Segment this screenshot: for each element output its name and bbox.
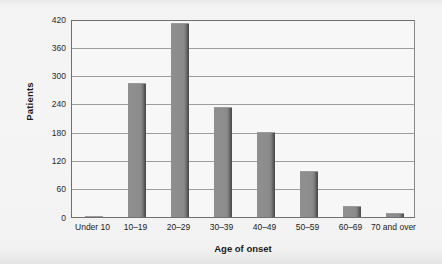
y-axis-tick-labels: 060120180240300360420 xyxy=(36,0,66,264)
x-axis-title: Age of onset xyxy=(71,243,415,254)
bar-slot xyxy=(171,20,189,217)
bar xyxy=(171,23,189,217)
bar xyxy=(214,107,232,217)
bar-chart-figure: Patients 060120180240300360420 Under 101… xyxy=(0,0,442,264)
bar xyxy=(85,216,103,218)
y-axis-tick-label: 60 xyxy=(40,185,66,194)
y-axis-tick-label: 360 xyxy=(40,44,66,53)
bar-slot xyxy=(128,20,146,217)
bar xyxy=(257,132,275,217)
bar-slot xyxy=(214,20,232,217)
y-axis-tick-label: 300 xyxy=(40,72,66,81)
bar-slot xyxy=(257,20,275,217)
y-axis-tick-label: 120 xyxy=(40,157,66,166)
y-axis-tick-label: 0 xyxy=(40,214,66,223)
bar-slot xyxy=(343,20,361,217)
bar xyxy=(128,83,146,217)
bar-slot xyxy=(85,20,103,217)
y-axis-tick-label: 240 xyxy=(40,100,66,109)
bar xyxy=(343,206,361,217)
bar xyxy=(386,213,404,217)
y-axis-title: Patients xyxy=(24,57,35,147)
bar-slot xyxy=(386,20,404,217)
plot-area xyxy=(71,20,415,218)
x-axis-tick-label: 70 and over xyxy=(366,222,422,232)
bar-slot xyxy=(300,20,318,217)
bar-series xyxy=(72,20,415,217)
bar xyxy=(300,171,318,217)
y-axis-tick-label: 180 xyxy=(40,129,66,138)
y-axis-tick-label: 420 xyxy=(40,16,66,25)
